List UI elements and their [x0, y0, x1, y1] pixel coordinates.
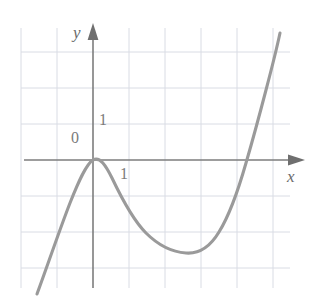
origin-tick-label: 0: [71, 130, 79, 146]
cubic-curve: [37, 33, 280, 294]
grid-lines: [21, 28, 290, 288]
x-unit-tick-label: 1: [120, 166, 128, 182]
x-axis-arrowhead-icon: [288, 155, 305, 166]
x-axis-label: x: [287, 168, 295, 185]
y-axis-arrowhead-icon: [88, 23, 99, 40]
y-axis-label: y: [73, 24, 81, 41]
plot-canvas: [0, 0, 316, 296]
y-unit-tick-label: 1: [99, 112, 107, 128]
cubic-function-graph: y x 0 1 1: [0, 0, 316, 296]
curve-path: [37, 33, 280, 294]
